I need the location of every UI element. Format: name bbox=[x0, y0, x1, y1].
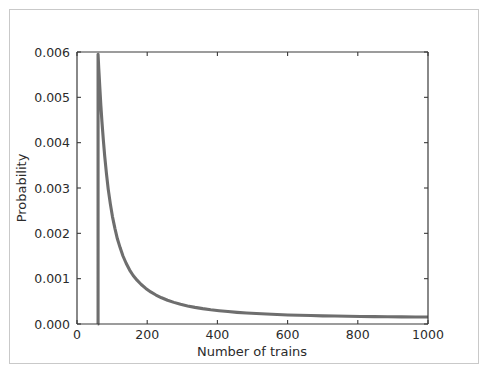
y-axis-tick-labels: 0.0000.0010.0020.0030.0040.0050.006 bbox=[34, 45, 70, 332]
x-tick-label: 0 bbox=[73, 327, 81, 342]
x-tick-label: 800 bbox=[346, 327, 370, 342]
x-tick-label: 200 bbox=[135, 327, 159, 342]
y-axis-title: Probability bbox=[14, 153, 29, 222]
x-tick-label: 600 bbox=[276, 327, 300, 342]
y-tick-label: 0.003 bbox=[34, 181, 70, 196]
y-tick-label: 0.004 bbox=[34, 135, 70, 150]
plot-area-background bbox=[77, 52, 428, 324]
y-tick-label: 0.006 bbox=[34, 45, 70, 60]
y-tick-label: 0.000 bbox=[34, 317, 70, 332]
y-tick-label: 0.001 bbox=[34, 271, 70, 286]
x-axis-title: Number of trains bbox=[197, 344, 307, 359]
x-axis-tick-labels: 02004006008001000 bbox=[73, 327, 444, 342]
x-tick-label: 1000 bbox=[412, 327, 444, 342]
chart-figure: 02004006008001000 0.0000.0010.0020.0030.… bbox=[0, 0, 490, 378]
y-tick-label: 0.002 bbox=[34, 226, 70, 241]
y-tick-label: 0.005 bbox=[34, 90, 70, 105]
probability-line-chart: 02004006008001000 0.0000.0010.0020.0030.… bbox=[0, 0, 490, 378]
x-tick-label: 400 bbox=[205, 327, 229, 342]
